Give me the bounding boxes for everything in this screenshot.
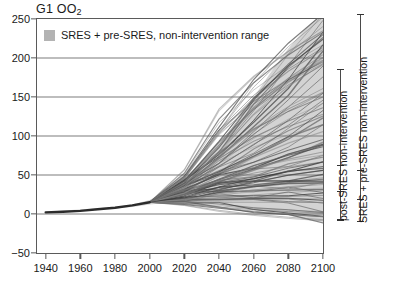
chart-title: G1 OO2	[36, 2, 82, 16]
plot-area	[36, 18, 324, 254]
x-axis-tick-label: 1940	[33, 262, 57, 274]
legend-label: SRES + pre-SRES, non-intervention range	[61, 29, 269, 41]
x-axis-tick-label: 1980	[103, 262, 127, 274]
y-axis: −50050100150200250	[0, 18, 36, 254]
x-axis-tick-mark	[114, 254, 115, 259]
plot-canvas	[37, 19, 323, 253]
x-axis-tick-mark	[322, 254, 323, 259]
x-axis-tick-label: 2020	[172, 262, 196, 274]
range-bar-tick	[337, 69, 345, 70]
historical-line	[46, 202, 150, 212]
x-axis-tick-mark	[80, 254, 81, 259]
chart-title-subscript: 2	[77, 7, 82, 17]
y-axis-tick-label: −50	[11, 247, 30, 259]
chart-title-text: G1 OO	[36, 2, 77, 16]
y-axis-tick-label: 50	[18, 169, 30, 181]
x-axis-tick-mark	[253, 254, 254, 259]
chart-legend: SRES + pre-SRES, non-intervention range	[44, 29, 269, 41]
y-axis-tick-label: 150	[12, 91, 30, 103]
right-range-bars: post-SRES non-interventionSRES + pre-SRE…	[330, 18, 405, 254]
range-bar-label: post-SRES non-intervention	[337, 91, 349, 221]
y-axis-tick-label: 200	[12, 52, 30, 64]
x-axis-tick-mark	[45, 254, 46, 259]
legend-swatch-icon	[44, 30, 55, 41]
x-axis-tick-label: 2060	[241, 262, 265, 274]
x-axis-tick-label: 2000	[137, 262, 161, 274]
y-axis-tick-label: 0	[24, 208, 30, 220]
x-axis-tick-label: 2040	[207, 262, 231, 274]
x-axis-tick-label: 2080	[276, 262, 300, 274]
chart-figure: G1 OO2 −50050100150200250 19401960198020…	[0, 0, 405, 285]
range-bar-tick	[357, 14, 365, 15]
y-axis-tick-label: 100	[12, 130, 30, 142]
x-axis: 194019601980200020202040206020802100	[36, 254, 324, 278]
y-axis-tick-label: 250	[12, 13, 30, 25]
x-axis-tick-mark	[288, 254, 289, 259]
x-axis-tick-mark	[149, 254, 150, 259]
x-axis-tick-label: 2100	[311, 262, 335, 274]
x-axis-tick-mark	[184, 254, 185, 259]
x-axis-tick-mark	[218, 254, 219, 259]
x-axis-tick-label: 1960	[68, 262, 92, 274]
range-bar-label: SRES + pre-SRES non-intervention	[357, 57, 369, 223]
